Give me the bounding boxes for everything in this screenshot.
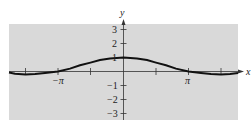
y-tick-label-neg3: −3: [107, 108, 118, 119]
y-tick-label-neg2: −2: [107, 94, 118, 105]
y-tick-label-neg1: −1: [107, 80, 118, 91]
y-axis-label: y: [119, 7, 125, 18]
x-tick-label-neg-pi: −π: [52, 75, 65, 86]
y-axis-arrow-icon: [122, 19, 126, 25]
y-tick-label-3: 3: [112, 24, 117, 35]
x-axis-arrow-icon: [238, 70, 244, 74]
sinc-chart: y x 3 2 1 −1 −2 −3 −π π: [0, 0, 252, 127]
y-tick-label-2: 2: [112, 38, 117, 49]
x-axis-label: x: [245, 66, 251, 77]
y-tick-label-1: 1: [112, 52, 117, 63]
